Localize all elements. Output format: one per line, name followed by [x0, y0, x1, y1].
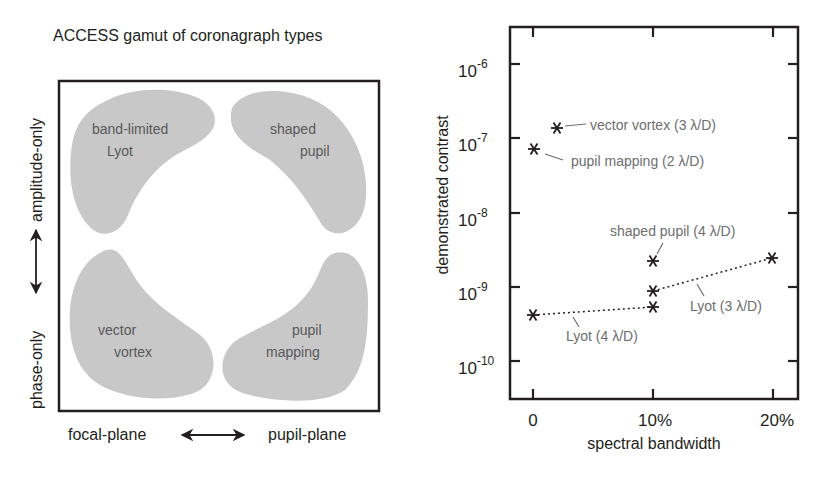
label-band-limited: band-limited — [92, 121, 168, 137]
phase-only-label: phase-only — [28, 331, 45, 409]
label-lyot: Lyot — [107, 143, 133, 159]
annotation-lyot3: Lyot (3 λ/D) — [690, 298, 762, 314]
x-tick-0: 0 — [528, 411, 537, 430]
focal-plane-label: focal-plane — [68, 426, 146, 443]
coronagraph-figure: ACCESS gamut of coronagraph types band-l… — [0, 0, 823, 479]
annotation-lyot4: Lyot (4 λ/D) — [566, 328, 638, 344]
label-vortex: vortex — [114, 344, 152, 360]
point-lyot4-10 — [647, 302, 659, 313]
pupil-plane-label: pupil-plane — [268, 426, 346, 443]
x-tick-20: 20% — [760, 411, 794, 430]
y-ticks — [510, 64, 798, 361]
gamut-title: ACCESS gamut of coronagraph types — [53, 27, 322, 44]
label-mapping: mapping — [266, 344, 320, 360]
amplitude-only-label: amplitude-only — [28, 118, 45, 222]
gamut-panel: ACCESS gamut of coronagraph types band-l… — [28, 27, 379, 443]
svg-text:10-6: 10-6 — [458, 57, 488, 81]
label-pupil-tr: pupil — [300, 143, 330, 159]
point-lyot4-0 — [527, 310, 539, 321]
contrast-chart: 10-6 10-7 10-8 10-9 10-10 0 10% 20% spec… — [434, 27, 798, 452]
plot-frame — [510, 27, 798, 399]
y-tick-labels: 10-6 10-7 10-8 10-9 10-10 — [458, 57, 495, 378]
annotation-vector-vortex: vector vortex (3 λ/D) — [590, 117, 716, 133]
label-pupil-br: pupil — [292, 322, 322, 338]
x-axis-title: spectral bandwidth — [587, 435, 720, 452]
point-pupil-mapping — [528, 144, 540, 155]
y-axis-title: demonstrated contrast — [434, 115, 451, 275]
label-shaped: shaped — [270, 121, 316, 137]
x-tick-10: 10% — [638, 411, 672, 430]
annotation-pupil-mapping: pupil mapping (2 λ/D) — [571, 153, 704, 169]
point-shaped-pupil — [647, 256, 659, 267]
lyot4-line — [533, 307, 653, 315]
annotation-shaped-pupil: shaped pupil (4 λ/D) — [610, 223, 735, 239]
point-lyot3-20 — [766, 253, 778, 264]
label-vector: vector — [98, 322, 136, 338]
svg-text:10-8: 10-8 — [458, 206, 488, 230]
svg-text:10-10: 10-10 — [458, 354, 495, 378]
svg-text:10-7: 10-7 — [458, 131, 488, 155]
annotations: vector vortex (3 λ/D) pupil mapping (2 λ… — [566, 117, 762, 344]
svg-text:10-9: 10-9 — [458, 280, 488, 304]
point-vector-vortex — [551, 123, 563, 134]
lyot3-line — [653, 258, 772, 291]
point-lyot3-10 — [647, 286, 659, 297]
